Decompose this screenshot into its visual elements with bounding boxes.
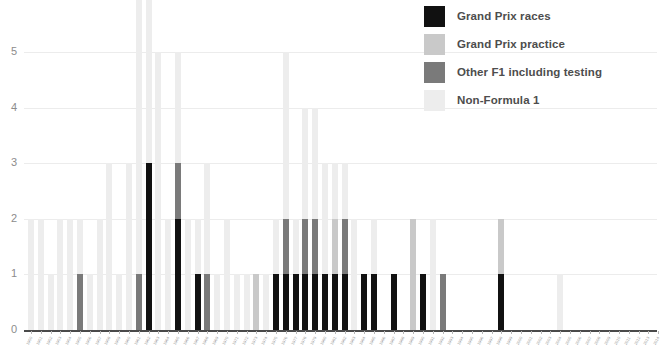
bar-column[interactable] [77,0,83,330]
bar-column[interactable] [302,0,308,330]
bar-column[interactable] [283,0,289,330]
y-tick-label-5: 5 [0,46,17,57]
x-tick-mark [188,331,189,334]
bar-column[interactable] [185,0,191,330]
x-tick-label: 2001 [525,336,534,346]
x-tick-mark [51,331,52,334]
x-tick-label: 1962 [142,336,151,346]
x-tick-label: 1993 [446,336,455,346]
x-tick-label: 1959 [113,336,122,346]
bar-column[interactable] [175,0,181,330]
bar-segment-other_f1 [77,274,83,330]
x-tick-mark [443,331,444,334]
x-tick-mark [423,331,424,334]
x-tick-label: 1997 [485,336,494,346]
bar-column[interactable] [165,0,171,330]
bar-column[interactable] [351,0,357,330]
bar-segment-non_f1 [185,219,191,330]
legend-item-non_f1[interactable]: Non-Formula 1 [424,86,657,114]
x-tick-mark [227,331,228,334]
bar-segment-races [195,274,201,330]
x-tick-mark [364,331,365,334]
legend-item-other_f1[interactable]: Other F1 including testing [424,58,657,86]
bar-column[interactable] [28,0,34,330]
x-tick-mark [158,331,159,334]
bar-segment-practice [410,219,416,330]
bar-segment-races [391,274,397,330]
bar-column[interactable] [293,0,299,330]
bar-column[interactable] [136,0,142,330]
bar-column[interactable] [126,0,132,330]
x-tick-mark [658,331,659,334]
bar-column[interactable] [48,0,54,330]
x-tick-label: 1977 [289,336,298,346]
x-tick-label: 1988 [397,336,406,346]
bar-column[interactable] [263,0,269,330]
bar-segment-races [293,274,299,330]
x-tick-mark [354,331,355,334]
bar-column[interactable] [410,0,416,330]
bar-column[interactable] [322,0,328,330]
bar-column[interactable] [332,0,338,330]
bar-column[interactable] [204,0,210,330]
bar-column[interactable] [244,0,250,330]
x-tick-label: 1961 [133,336,142,346]
bar-segment-other_f1 [312,219,318,275]
legend-item-races[interactable]: Grand Prix races [424,2,657,30]
x-tick-label: 1982 [338,336,347,346]
bar-column[interactable] [214,0,220,330]
bar-column[interactable] [38,0,44,330]
bar-segment-other_f1 [204,274,210,330]
bar-column[interactable] [67,0,73,330]
x-tick-mark [560,331,561,334]
x-tick-label: 2011 [623,336,631,346]
bar-column[interactable] [97,0,103,330]
bar-column[interactable] [155,0,161,330]
x-tick-label: 1960 [123,336,132,346]
bar-segment-non_f1 [234,274,240,330]
bar-column[interactable] [234,0,240,330]
bar-column[interactable] [312,0,318,330]
bar-column[interactable] [224,0,230,330]
x-tick-mark [403,331,404,334]
x-tick-mark [384,331,385,334]
bar-segment-non_f1 [342,163,348,219]
x-tick-mark [266,331,267,334]
bar-column[interactable] [371,0,377,330]
x-tick-label: 2004 [554,336,563,346]
x-tick-label: 1998 [495,336,504,346]
bar-segment-non_f1 [371,219,377,275]
bar-column[interactable] [87,0,93,330]
x-tick-mark [207,331,208,334]
bar-column[interactable] [381,0,387,330]
legend-item-practice[interactable]: Grand Prix practice [424,30,657,58]
bar-column[interactable] [391,0,397,330]
x-tick-label: 1991 [427,336,436,346]
x-tick-mark [119,331,120,334]
x-tick-mark [374,331,375,334]
x-tick-mark [178,331,179,334]
x-tick-label: 1985 [368,336,377,346]
bar-column[interactable] [361,0,367,330]
x-tick-mark [580,331,581,334]
x-tick-mark [315,331,316,334]
bar-column[interactable] [146,0,152,330]
x-tick-mark [256,331,257,334]
bar-column[interactable] [342,0,348,330]
bar-segment-other_f1 [302,219,308,275]
x-tick-label: 1990 [417,336,426,346]
bar-segment-non_f1 [557,274,563,330]
bar-column[interactable] [400,0,406,330]
bar-column[interactable] [195,0,201,330]
x-tick-mark [482,331,483,334]
bar-column[interactable] [273,0,279,330]
bar-segment-non_f1 [351,219,357,330]
bar-column[interactable] [106,0,112,330]
x-tick-label: 1967 [191,336,200,346]
bar-column[interactable] [253,0,259,330]
bar-column[interactable] [57,0,63,330]
bar-column[interactable] [116,0,122,330]
bar-segment-non_f1 [332,163,338,219]
bar-segment-non_f1 [67,219,73,330]
bar-segment-non_f1 [116,274,122,330]
